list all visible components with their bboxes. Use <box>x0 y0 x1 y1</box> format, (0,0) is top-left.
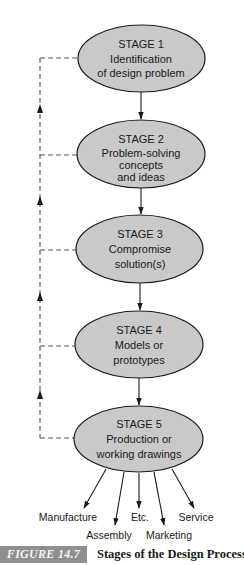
output-assembly: Assembly <box>86 529 132 541</box>
stage-4-node: STAGE 4 Models or prototypes <box>75 311 203 378</box>
stage-3-node: STAGE 3 Compromise solution(s) <box>76 215 203 283</box>
svg-text:concepts: concepts <box>119 159 164 171</box>
figure-label: FIGURE 14.7 <box>0 546 87 563</box>
feedback-loop <box>40 58 78 438</box>
stage-5-title: STAGE 5 <box>116 418 162 430</box>
svg-text:prototypes: prototypes <box>113 354 165 366</box>
output-service: Service <box>178 511 213 523</box>
output-marketing: Marketing <box>146 529 192 541</box>
stage-3-title: STAGE 3 <box>117 228 163 240</box>
stage-2-node: STAGE 2 Problem-solving concepts and ide… <box>77 120 205 188</box>
output-etc: Etc. <box>131 511 149 523</box>
design-process-diagram: STAGE 1 Identification of design problem… <box>0 0 244 565</box>
stage-1-title: STAGE 1 <box>118 38 164 50</box>
stage-4-title: STAGE 4 <box>116 324 162 336</box>
svg-text:working drawings: working drawings <box>96 448 182 460</box>
figure-caption: Stages of the Design Process. <box>97 546 244 563</box>
svg-text:Compromise: Compromise <box>109 243 171 255</box>
svg-text:Production or: Production or <box>106 433 172 445</box>
svg-text:Problem-solving: Problem-solving <box>102 147 181 159</box>
output-manufacture: Manufacture <box>39 511 98 523</box>
stage-5-node: STAGE 5 Production or working drawings <box>74 406 203 472</box>
svg-text:of design problem: of design problem <box>97 67 184 79</box>
svg-text:Identification: Identification <box>110 53 172 65</box>
stage-2-title: STAGE 2 <box>118 133 164 145</box>
stage-1-node: STAGE 1 Identification of design problem <box>78 25 205 92</box>
svg-text:Models or: Models or <box>115 339 164 351</box>
svg-text:and ideas: and ideas <box>117 171 165 183</box>
svg-text:solution(s): solution(s) <box>115 258 166 270</box>
